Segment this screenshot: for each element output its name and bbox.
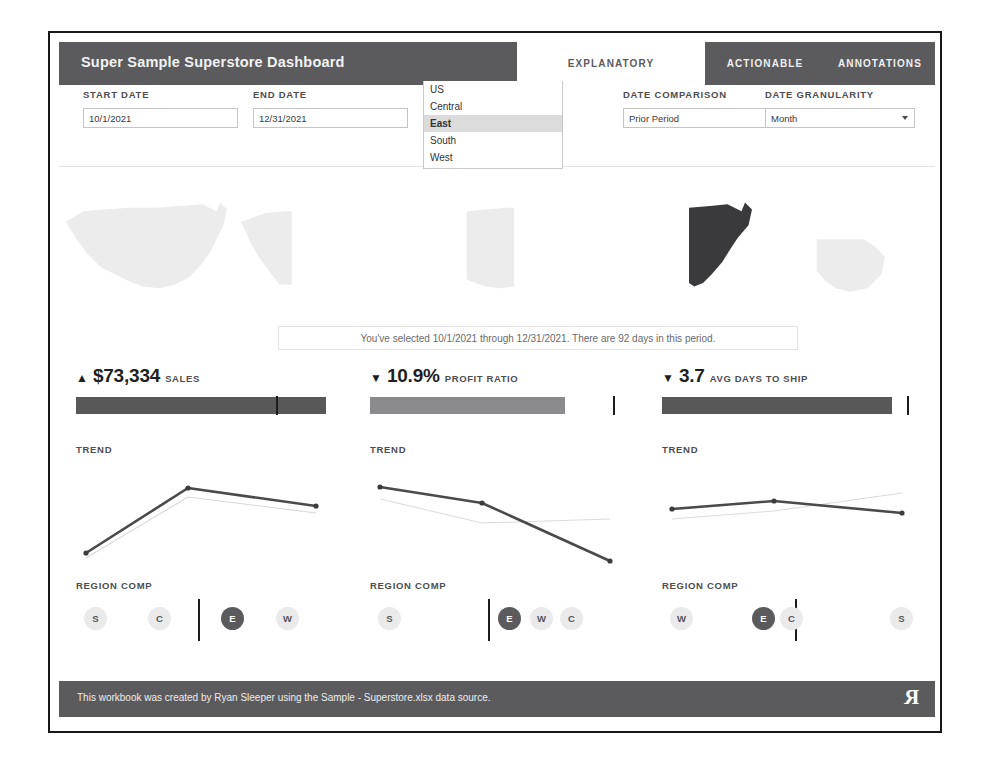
kpi-column-profit-ratio: ▼ 10.9% PROFIT RATIO TREND REGION COMP S: [370, 365, 660, 643]
region-badge-c[interactable]: C: [148, 607, 171, 630]
brand-logo-icon: R: [904, 685, 919, 710]
kpi-reference-marker: [613, 396, 615, 415]
regioncomp-sales: SCEW: [76, 599, 336, 643]
regioncomp-avg-days-to-ship: WECS: [662, 599, 922, 643]
regioncomp-label-avg-days-to-ship: REGION COMP: [662, 580, 952, 591]
region-reference-line: [488, 599, 490, 641]
region-badge-w[interactable]: W: [530, 607, 553, 630]
chevron-down-icon: [902, 116, 908, 120]
dashboard-frame: Super Sample Superstore Dashboard EXPLAN…: [48, 31, 942, 733]
kpi-reference-marker: [276, 396, 278, 415]
date-granularity-dropdown[interactable]: Month: [765, 108, 915, 128]
footer-bar: This workbook was created by Ryan Sleepe…: [59, 681, 935, 717]
regioncomp-profit-ratio: SEWC: [370, 599, 630, 643]
trend-arrow-icon: ▼: [370, 372, 382, 384]
region-map-east[interactable]: [584, 178, 759, 318]
kpi-bar-sales: [76, 397, 326, 414]
region-option-west[interactable]: West: [424, 149, 562, 166]
end-date-input[interactable]: 12/31/2021: [253, 108, 408, 128]
region-option-us[interactable]: US: [424, 81, 562, 98]
end-date-label: END DATE: [253, 89, 408, 100]
kpi-bar-fill: [370, 397, 565, 414]
kpi-row: ▲ $73,334 SALES TREND REGION COMP SCEW: [50, 365, 944, 665]
kpi-name-avg-days-to-ship: AVG DAYS TO SHIP: [710, 373, 808, 384]
region-badge-s[interactable]: S: [84, 607, 107, 630]
kpi-column-avg-days-to-ship: ▼ 3.7 AVG DAYS TO SHIP TREND REGION COMP: [662, 365, 952, 643]
regioncomp-label-profit-ratio: REGION COMP: [370, 580, 660, 591]
tab-strip: EXPLANATORY ACTIONABLE ANNOTATIONS: [59, 42, 935, 85]
region-badge-e[interactable]: E: [752, 607, 775, 630]
kpi-reference-marker: [907, 396, 909, 415]
tab-annotations[interactable]: ANNOTATIONS: [825, 42, 935, 85]
kpi-headline-avg-days-to-ship: ▼ 3.7 AVG DAYS TO SHIP: [662, 365, 952, 389]
kpi-bar-avg-days-to-ship: [662, 397, 912, 414]
trend-label-sales: TREND: [76, 444, 366, 455]
date-granularity-value: Month: [771, 113, 797, 124]
region-dropdown-list[interactable]: USCentralEastSouthWest: [423, 81, 563, 169]
regioncomp-label-sales: REGION COMP: [76, 580, 366, 591]
region-badge-e[interactable]: E: [498, 607, 521, 630]
sparkline-sales: [76, 461, 326, 566]
kpi-value-profit-ratio: 10.9%: [387, 365, 440, 387]
filter-end-date: END DATE 12/31/2021: [253, 89, 408, 128]
date-granularity-label: DATE GRANULARITY: [765, 89, 915, 100]
kpi-bar-fill: [76, 397, 326, 414]
kpi-bar-fill: [662, 397, 892, 414]
kpi-headline-sales: ▲ $73,334 SALES: [76, 365, 366, 389]
filter-start-date: START DATE 10/1/2021: [83, 89, 238, 128]
filter-date-granularity: DATE GRANULARITY Month: [765, 89, 915, 128]
footer-text: This workbook was created by Ryan Sleepe…: [77, 692, 491, 703]
trend-arrow-icon: ▲: [76, 372, 88, 384]
region-badge-s[interactable]: S: [378, 607, 401, 630]
region-map-central[interactable]: [409, 178, 584, 318]
selection-note: You've selected 10/1/2021 through 12/31/…: [278, 326, 798, 350]
kpi-name-sales: SALES: [165, 373, 200, 384]
region-badge-w[interactable]: W: [670, 607, 693, 630]
region-badge-s[interactable]: S: [890, 607, 913, 630]
region-badge-c[interactable]: C: [560, 607, 583, 630]
kpi-name-profit-ratio: PROFIT RATIO: [445, 373, 519, 384]
region-map-west[interactable]: [234, 178, 409, 318]
kpi-bar-profit-ratio: [370, 397, 620, 414]
start-date-label: START DATE: [83, 89, 238, 100]
trend-label-profit-ratio: TREND: [370, 444, 660, 455]
trend-label-avg-days-to-ship: TREND: [662, 444, 952, 455]
region-badge-w[interactable]: W: [276, 607, 299, 630]
tab-actionable[interactable]: ACTIONABLE: [705, 42, 825, 85]
region-option-east[interactable]: East: [424, 115, 562, 132]
date-comparison-label: DATE COMPARISON: [623, 89, 778, 100]
region-badge-c[interactable]: C: [780, 607, 803, 630]
date-comparison-value: Prior Period: [629, 113, 679, 124]
start-date-input[interactable]: 10/1/2021: [83, 108, 238, 128]
trend-arrow-icon: ▼: [662, 372, 674, 384]
region-map-us[interactable]: [59, 178, 234, 318]
region-map-row: [59, 178, 935, 318]
region-map-south[interactable]: [759, 178, 934, 318]
sparkline-avg-days-to-ship: [662, 461, 912, 566]
date-comparison-dropdown[interactable]: Prior Period: [623, 108, 778, 128]
region-badge-e[interactable]: E: [221, 607, 244, 630]
kpi-value-sales: $73,334: [93, 365, 160, 387]
sparkline-profit-ratio: [370, 461, 620, 566]
region-option-south[interactable]: South: [424, 132, 562, 149]
filter-date-comparison: DATE COMPARISON Prior Period: [623, 89, 778, 128]
region-option-central[interactable]: Central: [424, 98, 562, 115]
kpi-headline-profit-ratio: ▼ 10.9% PROFIT RATIO: [370, 365, 660, 389]
kpi-value-avg-days-to-ship: 3.7: [679, 365, 705, 387]
tab-explanatory[interactable]: EXPLANATORY: [517, 42, 705, 85]
header-bar: Super Sample Superstore Dashboard EXPLAN…: [59, 42, 935, 85]
region-reference-line: [198, 599, 200, 641]
kpi-column-sales: ▲ $73,334 SALES TREND REGION COMP SCEW: [76, 365, 366, 643]
